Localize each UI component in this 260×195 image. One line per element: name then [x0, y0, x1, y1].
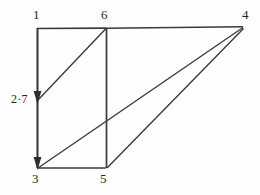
vertex-label-4: 4 — [242, 8, 249, 21]
measure-label-2-7: 2·7 — [11, 93, 28, 105]
edge-6-to-midpoint — [38, 29, 106, 101]
figure-container: 1 6 4 3 5 2·7 — [0, 0, 260, 195]
vertex-label-1: 1 — [33, 8, 40, 21]
edge-6-to-4 — [106, 27, 243, 28]
edge-4-to-3 — [38, 28, 243, 169]
vertex-label-6: 6 — [101, 8, 108, 21]
edge-4-to-5 — [107, 29, 244, 169]
diagram-canvas — [0, 0, 260, 195]
vertex-label-3: 3 — [32, 172, 39, 185]
vertex-label-5: 5 — [100, 172, 107, 185]
